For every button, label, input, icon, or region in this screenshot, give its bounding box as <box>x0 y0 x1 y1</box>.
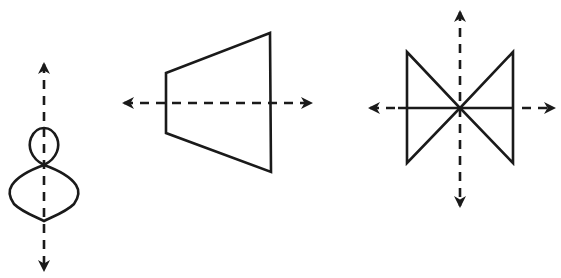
symmetry-diagram <box>0 0 561 278</box>
figure-1-figure-eight <box>10 64 79 270</box>
figure-2-trapezoid <box>124 33 311 172</box>
figure-3-bowtie <box>370 12 554 206</box>
